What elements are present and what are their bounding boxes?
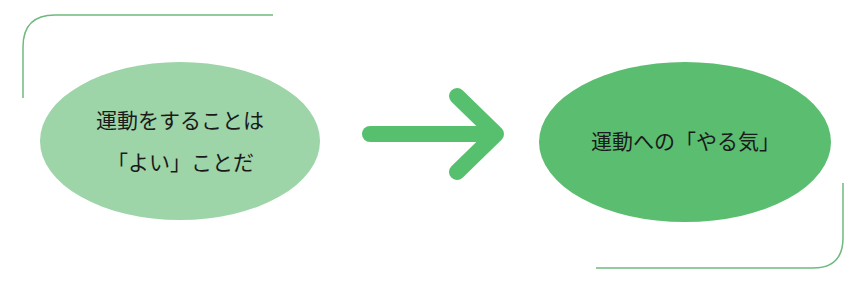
left-node-line-2: 「よい」ことだ	[40, 142, 320, 184]
left-node-label: 運動をすることは 「よい」ことだ	[40, 100, 320, 184]
left-node-line-1: 運動をすることは	[40, 100, 320, 142]
arrow-right-icon	[370, 96, 496, 172]
right-node-label: 運動への「やる気」	[540, 125, 830, 159]
